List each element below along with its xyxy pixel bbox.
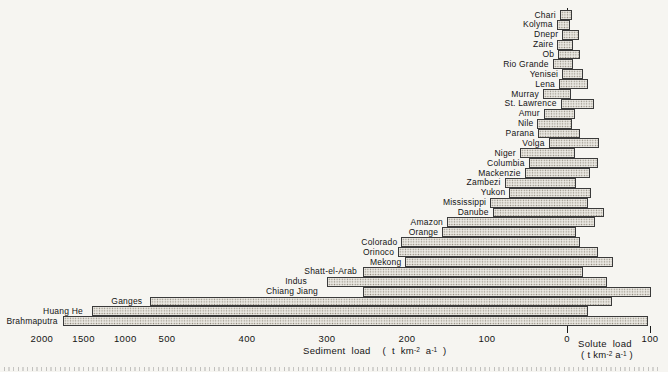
solute-tickmark-100 [650, 326, 651, 333]
river-label-yenisei: Yenisei [530, 69, 559, 79]
bar-chari [560, 10, 572, 20]
bar-columbia [529, 158, 598, 168]
river-label-brahmaputra: Brahmaputra [6, 316, 57, 326]
sediment-tick-0: 0 [564, 333, 570, 344]
river-label-mackenzie: Mackenzie [478, 168, 520, 178]
river-label-dnepr: Dnepr [534, 29, 558, 39]
river-label-st-lawrence: St. Lawrence [505, 98, 557, 108]
axis-title-sediment: Sediment load ( t km-2 a-1 ) [303, 345, 447, 356]
river-label-huang-he: Huang He [43, 306, 83, 316]
river-label-kolyma: Kolyma [523, 19, 553, 29]
river-loads-figure: Sediment load ( t km-2 a-1 ) Solute load… [0, 0, 668, 372]
sediment-tick-200: 200 [398, 333, 415, 344]
river-label-ganges: Ganges [111, 296, 142, 306]
river-label-colorado: Colorado [361, 237, 397, 247]
axis-title-solute: Solute load [578, 338, 632, 349]
bar-lena [559, 79, 588, 89]
axis-title-sediment-text: Sediment load [303, 345, 371, 356]
axis-title-solute-unit: ( t km-2 a-1 ) [581, 349, 633, 360]
bar-colorado [401, 237, 580, 247]
river-label-parana: Parana [506, 128, 535, 138]
river-label-orinoco: Orinoco [363, 247, 394, 257]
bar-volga [549, 138, 600, 148]
river-label-mississippi: Mississippi [443, 197, 486, 207]
river-label-mekong: Mekong [370, 257, 401, 267]
bar-amur [544, 109, 576, 119]
river-label-volga: Volga [522, 138, 544, 148]
bar-kolyma [557, 20, 571, 30]
plot-area: Sediment load ( t km-2 a-1 ) Solute load… [0, 0, 668, 372]
bar-amazon [447, 217, 595, 227]
sediment-tick-500: 500 [158, 333, 175, 344]
bar-zambezi [505, 178, 577, 188]
bar-orange [442, 227, 576, 237]
river-label-niger: Niger [495, 148, 516, 158]
bar-mackenzie [525, 168, 591, 178]
bar-indus [327, 277, 607, 287]
river-label-ob: Ob [542, 49, 554, 59]
bar-ganges [150, 297, 612, 307]
bar-chiang-jiang [363, 287, 651, 297]
bar-zaire [557, 40, 572, 50]
river-label-amur: Amur [519, 108, 540, 118]
river-label-murray: Murray [511, 89, 539, 99]
sediment-tick-400: 400 [238, 333, 255, 344]
sediment-tick-1500: 1500 [72, 333, 95, 344]
bar-mississippi [490, 198, 588, 208]
bar-dnepr [562, 30, 579, 40]
bar-shatt-el-arab [363, 267, 583, 277]
river-label-indus: Indus [285, 276, 307, 286]
bar-mekong [405, 257, 613, 267]
river-label-orange: Orange [409, 227, 439, 237]
river-label-shatt-el-arab: Shatt-el-Arab [304, 266, 357, 276]
river-label-danube: Danube [458, 207, 489, 217]
sediment-tick-300: 300 [318, 333, 335, 344]
solute-tick-100: 100 [641, 333, 658, 344]
river-label-columbia: Columbia [487, 158, 525, 168]
river-label-zambezi: Zambezi [467, 177, 501, 187]
bar-st-lawrence [561, 99, 595, 109]
bar-danube [493, 208, 605, 218]
bar-huang-he [92, 306, 588, 316]
river-label-lena: Lena [535, 79, 555, 89]
river-label-yukon: Yukon [481, 187, 506, 197]
river-label-amazon: Amazon [411, 217, 443, 227]
bar-yukon [509, 188, 591, 198]
river-label-chari: Chari [535, 10, 556, 20]
river-label-chiang-jiang: Chiang Jiang [266, 286, 318, 296]
bar-brahmaputra [63, 316, 648, 326]
sediment-tick-2000: 2000 [31, 333, 54, 344]
river-label-nile: Nile [518, 118, 533, 128]
river-label-rio-grande: Rio Grande [503, 59, 548, 69]
river-label-zaire: Zaire [533, 39, 553, 49]
bar-niger [520, 148, 576, 158]
bar-nile [537, 119, 572, 129]
sediment-tick-1000: 1000 [114, 333, 137, 344]
cropped-caption-line [4, 367, 662, 371]
axis-title-sediment-unit: ( t km-2 a-1 ) [383, 345, 447, 356]
bar-ob [558, 50, 580, 60]
bar-orinoco [398, 247, 598, 257]
bar-yenisei [562, 69, 583, 79]
sediment-tick-100: 100 [478, 333, 495, 344]
